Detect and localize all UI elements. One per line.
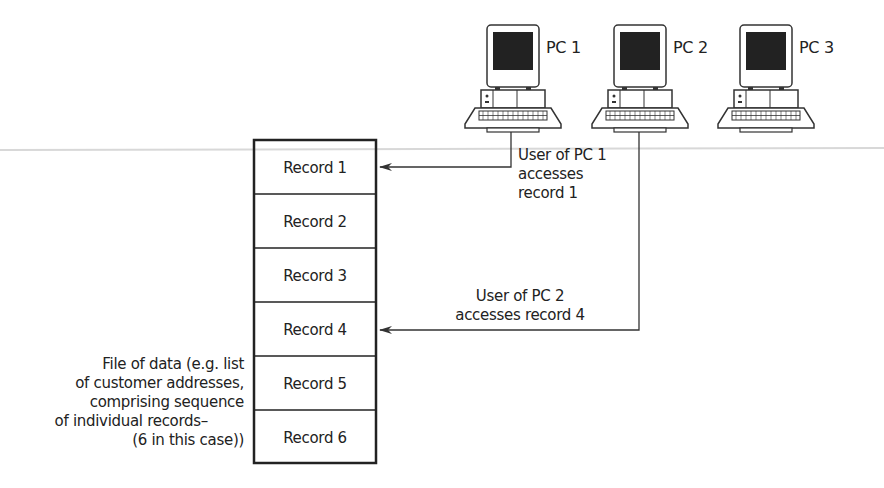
record-2: Record 2 bbox=[255, 195, 375, 249]
annotation-line: accesses bbox=[518, 165, 606, 184]
record-3: Record 3 bbox=[255, 249, 375, 303]
annotation-line: record 1 bbox=[518, 184, 606, 203]
record-4: Record 4 bbox=[255, 303, 375, 357]
pc3-label: PC 3 bbox=[799, 38, 834, 57]
caption-line: (6 in this case)) bbox=[40, 431, 244, 450]
annotation-line: accesses record 4 bbox=[430, 306, 610, 325]
pc2-access-annotation: User of PC 2 accesses record 4 bbox=[430, 287, 610, 325]
pc1-access-annotation: User of PC 1 accesses record 1 bbox=[518, 146, 606, 203]
caption-line: comprising sequence bbox=[40, 393, 244, 412]
caption-line: File of data (e.g. list bbox=[40, 355, 244, 374]
annotation-line: User of PC 1 bbox=[518, 146, 606, 165]
record-1: Record 1 bbox=[255, 141, 375, 195]
scan-artifact-line bbox=[0, 148, 884, 150]
pc1-label: PC 1 bbox=[546, 38, 581, 57]
record-6: Record 6 bbox=[255, 411, 375, 465]
pc2-label: PC 2 bbox=[673, 38, 708, 57]
caption-line: of customer addresses, bbox=[40, 374, 244, 393]
caption-line: of individual records– bbox=[40, 412, 244, 431]
file-caption: File of data (e.g. list of customer addr… bbox=[40, 355, 244, 450]
record-5: Record 5 bbox=[255, 357, 375, 411]
annotation-line: User of PC 2 bbox=[430, 287, 610, 306]
